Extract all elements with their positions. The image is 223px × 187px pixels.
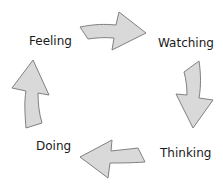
stage-label-watching: Watching	[158, 36, 214, 50]
arrow-down-icon	[176, 61, 213, 128]
stage-label-feeling: Feeling	[29, 34, 72, 48]
arrow-right-icon	[80, 12, 146, 50]
stage-label-doing: Doing	[36, 139, 71, 153]
arrow-left-icon	[80, 140, 145, 178]
stage-label-thinking: Thinking	[160, 146, 211, 160]
arrow-up-icon	[12, 60, 49, 128]
